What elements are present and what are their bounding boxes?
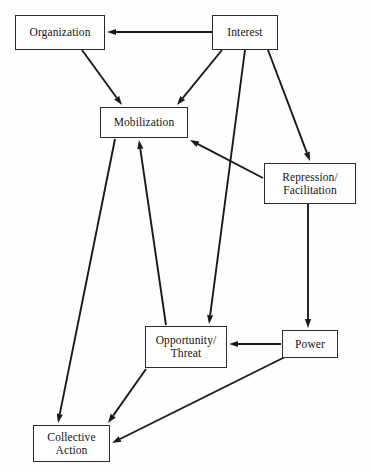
arrowhead-icon xyxy=(57,414,63,423)
diagram-canvas: OrganizationInterestMobilizationRepressi… xyxy=(0,0,371,472)
edge-interest-to-repression xyxy=(268,50,310,161)
edge-power-to-collective xyxy=(112,357,285,443)
node-mobilization[interactable]: Mobilization xyxy=(100,107,188,138)
arrowhead-icon xyxy=(207,315,213,324)
edge-opportunity-to-collective xyxy=(108,369,146,423)
edge-repression-to-power xyxy=(305,204,311,328)
edge-line xyxy=(140,149,166,325)
edges-layer xyxy=(0,0,371,472)
arrowhead-icon xyxy=(190,140,199,147)
edge-interest-to-opportunity xyxy=(207,50,245,324)
edge-interest-to-mobilization xyxy=(177,50,222,105)
edge-line xyxy=(60,139,115,414)
edge-interest-to-organization xyxy=(107,29,212,35)
edge-line xyxy=(210,50,245,315)
node-organization[interactable]: Organization xyxy=(15,15,105,50)
edge-line xyxy=(113,369,146,416)
node-label-power: Power xyxy=(293,338,327,351)
edge-opportunity-to-mobilization xyxy=(137,140,166,325)
node-label-repression: Repression/ Facilitation xyxy=(280,171,339,197)
node-label-mobilization: Mobilization xyxy=(112,116,177,129)
arrowhead-icon xyxy=(107,29,116,35)
edge-line xyxy=(268,50,307,153)
node-label-organization: Organization xyxy=(27,26,92,39)
node-label-interest: Interest xyxy=(225,26,264,39)
arrowhead-icon xyxy=(112,436,121,443)
edge-mobilization-to-collective xyxy=(57,139,115,423)
node-power[interactable]: Power xyxy=(282,330,338,358)
node-label-opportunity: Opportunity/ Threat xyxy=(154,334,219,360)
edge-power-to-opportunity xyxy=(229,341,281,347)
edge-line xyxy=(198,144,263,178)
edge-repression-to-mobilization xyxy=(190,140,263,178)
node-interest[interactable]: Interest xyxy=(212,15,278,50)
arrowhead-icon xyxy=(137,140,143,149)
edge-line xyxy=(82,50,117,98)
arrowhead-icon xyxy=(304,151,310,161)
arrowhead-icon xyxy=(229,341,238,347)
node-repression[interactable]: Repression/ Facilitation xyxy=(264,163,356,204)
edge-line xyxy=(183,50,222,98)
node-collective[interactable]: Collective Action xyxy=(33,425,110,462)
node-label-collective: Collective Action xyxy=(45,431,97,457)
arrowhead-icon xyxy=(305,319,311,328)
edge-organization-to-mobilization xyxy=(82,50,122,105)
node-opportunity[interactable]: Opportunity/ Threat xyxy=(145,326,227,368)
